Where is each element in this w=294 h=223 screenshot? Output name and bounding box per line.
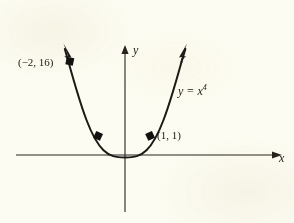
marker-point-neg2-16[interactable] [65,57,74,66]
x-axis-label: x [279,152,284,164]
y-axis-label: y [133,44,138,56]
graph-canvas [0,0,294,223]
curve-equation-label: y = x4 [178,85,207,97]
axis-group [16,45,282,212]
point-label-1-1: (1, 1) [157,130,181,141]
equation-exponent: 4 [203,83,207,92]
y-axis-arrowhead [121,45,128,54]
equation-base: y = x [178,84,203,98]
graph-figure: y x y = x4 (−2, 16) (1, 1) [0,0,294,223]
point-label-neg2-16: (−2, 16) [18,57,54,68]
